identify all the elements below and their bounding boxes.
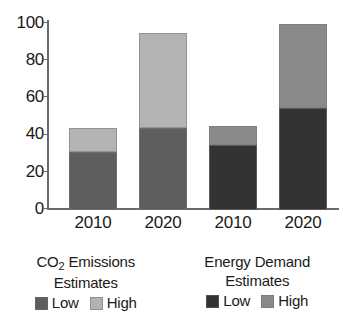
y-tick-label: 100 [0,14,44,31]
bar-group-co2-2020 [139,2,187,210]
legend-swatch-icon [90,297,103,310]
y-axis-tick [44,22,48,23]
legend-group-co2: CO2 Emissions Estimates Low High [0,252,172,330]
legend-group-energy: Energy Demand Estimates Low High [172,252,343,330]
y-axis-tick [44,171,48,172]
bar-segment-high[interactable] [209,126,257,145]
legend-key-label: High [278,293,308,309]
bar-segment-low[interactable] [279,108,327,210]
legend-title-co2-main: CO [36,253,58,270]
legend-swatch-icon [206,295,219,308]
legend-subtitle-energy: Estimates [225,271,289,290]
y-axis-tick [44,134,48,135]
legend-title-co2-rest: Emissions [65,253,136,270]
legend-key-label: Low [223,293,250,309]
bar-group-energy-2020 [279,2,327,210]
bar-segment-low[interactable] [139,128,187,210]
legend-swatch-icon [35,297,48,310]
legend-key-co2-low[interactable]: Low [35,295,79,311]
legend-key-label: High [107,295,137,311]
x-tick-label-co2-2020: 2020 [128,212,198,234]
y-axis-tick [44,96,48,97]
y-axis-tick [44,208,48,209]
legend-key-energy-high[interactable]: High [261,293,308,309]
bar-group-energy-2010 [209,2,257,210]
y-axis-tick-labels: 100 80 60 40 20 0 [0,0,44,232]
x-tick-label-energy-2010: 2010 [198,212,268,234]
y-tick-label: 20 [0,163,44,180]
legend-title-co2: CO2 Emissions [36,252,135,273]
legend-title-co2-subscript: 2 [59,260,65,272]
legend-swatch-icon [261,295,274,308]
stacked-bar-chart: 100 80 60 40 20 0 [0,0,343,330]
y-tick-label: 60 [0,88,44,105]
bars-layer [49,0,339,210]
bar-segment-high[interactable] [139,33,187,128]
x-tick-label-co2-2010: 2010 [58,212,128,234]
x-axis-tick-labels: 2010 2020 2010 2020 [49,212,339,240]
bar-segment-low[interactable] [69,152,117,210]
legend-keys-co2: Low High [35,295,137,311]
y-tick-label: 0 [0,200,44,217]
legend-key-co2-high[interactable]: High [90,295,137,311]
legend-keys-energy: Low High [206,293,308,309]
bar-segment-low[interactable] [209,145,257,210]
legend-title-energy-main: Energy Demand [204,253,310,270]
y-tick-label: 40 [0,125,44,142]
legend-key-energy-low[interactable]: Low [206,293,250,309]
legend-subtitle-co2: Estimates [54,273,118,292]
legend-key-label: Low [52,295,79,311]
bar-segment-high[interactable] [279,24,327,108]
legend-title-energy: Energy Demand [204,252,310,271]
legend-block: CO2 Emissions Estimates Low High Energy … [0,252,343,330]
y-axis-tick [44,59,48,60]
x-tick-label-energy-2020: 2020 [268,212,338,234]
y-tick-label: 80 [0,51,44,68]
plot-area: 100 80 60 40 20 0 [0,0,343,232]
bar-group-co2-2010 [69,2,117,210]
bar-segment-high[interactable] [69,128,117,152]
